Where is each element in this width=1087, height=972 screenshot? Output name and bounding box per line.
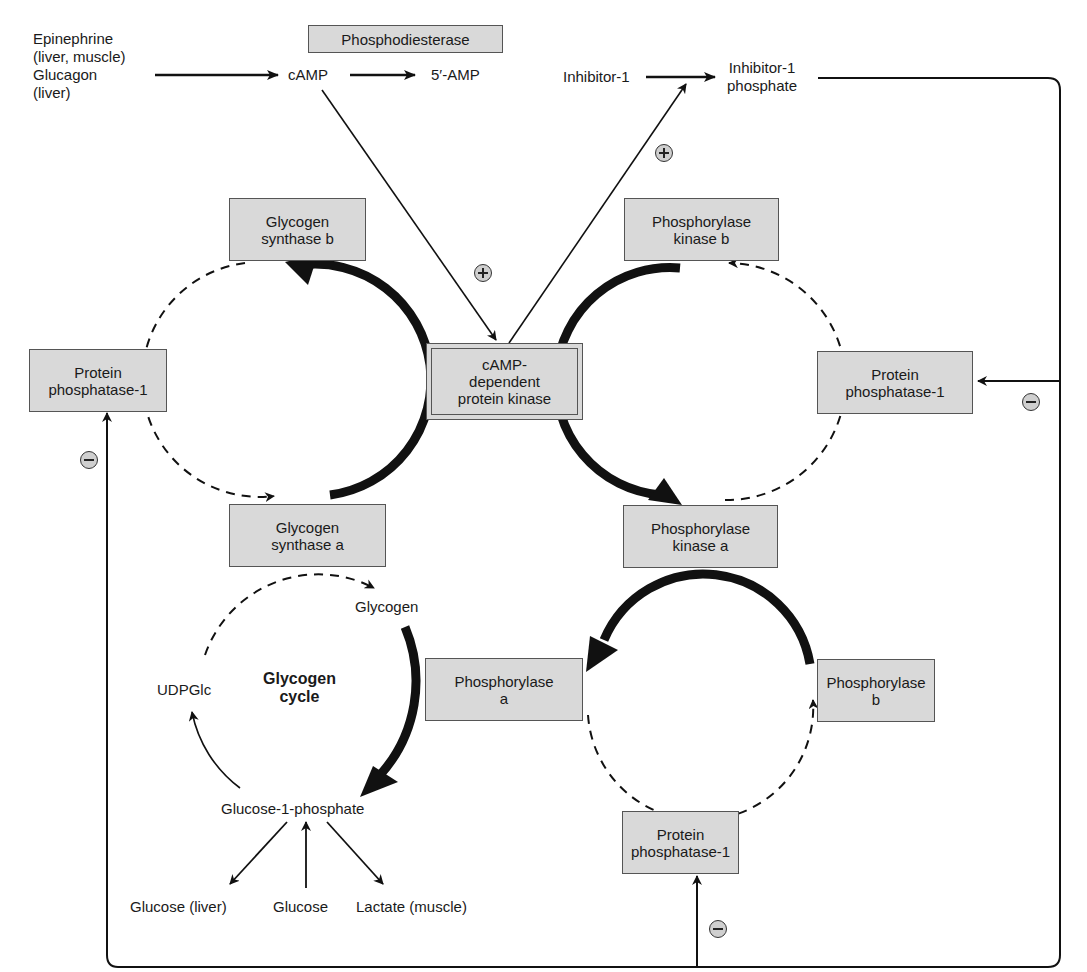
glycogen-synthase-a-box: Glycogensynthase a (229, 504, 386, 567)
glycogen-regulation-diagram (0, 0, 1087, 972)
glycogen-to-g1p-arrow (380, 627, 416, 775)
amp-label: 5′-AMP (431, 66, 480, 84)
camp-dependent-protein-kinase-box: cAMP-dependentprotein kinase (426, 343, 583, 420)
minus-sign-icon (80, 451, 98, 469)
lactate-muscle-label: Lactate (muscle) (356, 898, 467, 916)
g1p-to-glucose-liver-arrow (230, 822, 287, 884)
phosphodiesterase-box: Phosphodiesterase (308, 25, 503, 53)
protein-phosphatase-1-left-box: Proteinphosphatase-1 (29, 349, 167, 412)
phka-phosphorylates-phosphorylase-arrow (604, 574, 810, 664)
glucose-1-phosphate-label: Glucose-1-phosphate (221, 800, 364, 818)
synthase-to-glycogen-arrow (205, 574, 374, 655)
phosphorylase-kinase-b-box: Phosphorylasekinase b (624, 198, 779, 261)
pka-phosphorylates-gsa-arrow (300, 264, 431, 495)
glycogen-cycle-label: Glycogen cycle (263, 670, 336, 706)
glucose-label: Glucose (273, 898, 328, 916)
glycogen-label: Glycogen (355, 598, 418, 616)
camp-label: cAMP (288, 66, 328, 84)
protein-phosphatase-1-bottom-box: Proteinphosphatase-1 (622, 811, 739, 874)
minus-sign-icon (1022, 393, 1040, 411)
pp1-dephosphorylates-phosphorylase-arrow (588, 700, 813, 820)
g1p-to-udpglc-arrow (192, 712, 240, 788)
g1p-to-lactate-arrow (327, 822, 383, 884)
phosphorylase-a-box: Phosphorylasea (425, 658, 583, 721)
inhibitor1-phosphate-label: Inhibitor-1 phosphate (727, 59, 797, 95)
glucose-liver-label: Glucose (liver) (130, 898, 227, 916)
protein-phosphatase-1-right-box: Proteinphosphatase-1 (817, 351, 973, 414)
plus-sign-icon (474, 264, 492, 282)
phosphorylase-b-box: Phosphorylaseb (817, 659, 935, 722)
udpglc-label: UDPGlc (157, 681, 211, 699)
plus-sign-icon (655, 144, 673, 162)
minus-sign-icon (709, 920, 727, 938)
hormones-label: Epinephrine (liver, muscle) Glucagon (li… (33, 30, 126, 102)
phosphorylase-kinase-a-box: Phosphorylasekinase a (623, 505, 778, 568)
glycogen-synthase-b-box: Glycogensynthase b (229, 198, 366, 261)
inhibitor1-label: Inhibitor-1 (563, 68, 630, 86)
